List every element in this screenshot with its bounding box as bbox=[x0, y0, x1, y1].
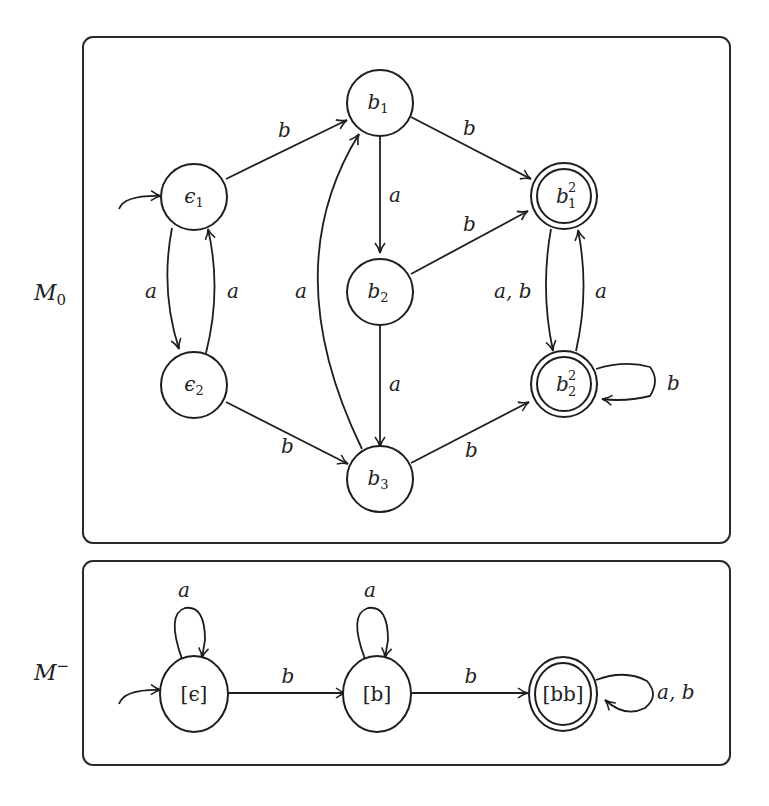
edge-label: b bbox=[281, 434, 294, 458]
svg-text:1: 1 bbox=[568, 196, 576, 211]
edge-label: a bbox=[364, 578, 376, 602]
svg-text:b: b bbox=[556, 184, 569, 208]
edge-label: b bbox=[667, 371, 680, 395]
edge-q2-loop bbox=[596, 675, 653, 712]
state-b22-accepting: b 2 2 bbox=[531, 351, 597, 417]
edge-b22-b12 bbox=[576, 230, 584, 351]
edge-b12-b22 bbox=[546, 229, 553, 351]
edge-label: a, b bbox=[657, 680, 694, 704]
edge-label: b bbox=[282, 664, 295, 688]
state-q1-b: [b] bbox=[343, 656, 411, 732]
edge-label: b bbox=[463, 212, 476, 236]
edge-label: b bbox=[465, 664, 478, 688]
state-b2: b2 bbox=[347, 259, 413, 325]
svg-text:[bb]: [bb] bbox=[542, 682, 583, 706]
edge-e2-e1 bbox=[206, 229, 215, 353]
svg-text:[b]: [b] bbox=[363, 682, 391, 706]
mminus-label: M− bbox=[33, 657, 69, 685]
m0-label: M0 bbox=[33, 280, 66, 309]
edge-b22-loop bbox=[596, 364, 655, 400]
initial-arrow-q0 bbox=[119, 690, 161, 704]
edge-label: b bbox=[463, 116, 476, 140]
edge-label: a bbox=[389, 183, 401, 207]
svg-text:2: 2 bbox=[568, 180, 576, 195]
edge-label: a bbox=[227, 279, 239, 303]
state-q0-epsilon: [ϵ] bbox=[160, 656, 228, 732]
edge-label: a bbox=[178, 578, 190, 602]
svg-text:b: b bbox=[556, 372, 569, 396]
edge-label: a bbox=[145, 279, 157, 303]
state-q2-bb-accepting: [bb] bbox=[529, 657, 597, 731]
svg-text:2: 2 bbox=[568, 368, 576, 383]
automata-diagram: M0 M− b a a b a a a b b b a, b a b ϵ1 ϵ2 bbox=[0, 0, 769, 806]
edge-label: a bbox=[295, 279, 307, 303]
edge-label: b bbox=[278, 118, 291, 142]
state-b3: b3 bbox=[347, 446, 413, 512]
edge-label: b bbox=[465, 438, 478, 462]
edge-label: a, b bbox=[494, 279, 531, 303]
edge-q1-loop bbox=[357, 608, 388, 659]
state-e1: ϵ1 bbox=[161, 164, 227, 230]
svg-text:2: 2 bbox=[568, 384, 576, 399]
edge-e1-e2 bbox=[167, 228, 179, 349]
edge-label: a bbox=[389, 372, 401, 396]
initial-arrow-e1 bbox=[119, 196, 161, 209]
state-b1: b1 bbox=[347, 70, 413, 136]
svg-text:[ϵ]: [ϵ] bbox=[181, 682, 208, 706]
edge-label: a bbox=[595, 279, 607, 303]
state-b12-accepting: b 2 1 bbox=[531, 163, 597, 229]
edge-q0-loop bbox=[175, 608, 205, 659]
state-e2: ϵ2 bbox=[161, 352, 227, 418]
